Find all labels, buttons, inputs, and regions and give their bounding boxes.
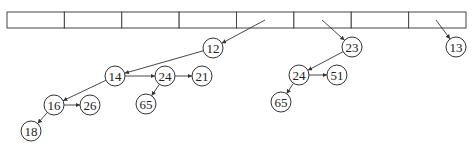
tree-node-23: 23	[342, 37, 362, 57]
node-label: 26	[84, 98, 98, 113]
node-label: 18	[25, 124, 38, 139]
node-label: 65	[275, 95, 288, 110]
tree-node-65: 65	[271, 92, 291, 112]
node-label: 51	[331, 68, 344, 83]
tree-node-65: 65	[136, 94, 156, 114]
tree-node-13: 13	[446, 37, 466, 57]
array	[7, 12, 466, 28]
tree-node-24: 24	[289, 65, 309, 85]
node-label: 24	[159, 69, 173, 84]
tree-node-12: 12	[203, 38, 223, 58]
tree-node-24: 24	[155, 66, 175, 86]
node-label: 13	[450, 40, 463, 55]
node-label: 16	[48, 98, 62, 113]
binomial-queue-diagram: 12142421651626182324516513	[0, 0, 474, 148]
edge-arrow	[287, 83, 294, 93]
array-cell-2	[122, 12, 179, 28]
array-cell-3	[179, 12, 236, 28]
node-label: 23	[346, 40, 359, 55]
tree-node-26: 26	[80, 95, 100, 115]
tree-node-18: 18	[21, 121, 41, 141]
edge-arrow	[38, 112, 48, 123]
edge-arrow	[152, 84, 160, 95]
node-label: 14	[109, 69, 123, 84]
tree-node-21: 21	[192, 66, 212, 86]
array-cell-4	[237, 12, 294, 28]
tree-node-16: 16	[44, 95, 64, 115]
node-label: 21	[196, 69, 209, 84]
tree-node-51: 51	[327, 65, 347, 85]
tree-node-14: 14	[105, 66, 125, 86]
array-cell-7	[409, 12, 466, 28]
node-label: 65	[140, 97, 153, 112]
node-label: 24	[293, 68, 307, 83]
array-cell-1	[64, 12, 121, 28]
array-cell-6	[351, 12, 408, 28]
node-label: 12	[207, 41, 220, 56]
array-cell-0	[7, 12, 64, 28]
